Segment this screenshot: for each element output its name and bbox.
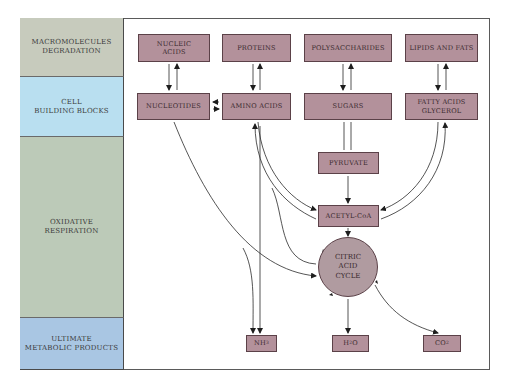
node-lipids-and-fats: LIPIDS AND FATS [405,34,478,62]
node-nucleic-acids: NUCLEIC ACIDS [138,34,210,62]
node-h2o: H2O [332,335,369,352]
node-co2: CO2 [423,335,461,352]
stage-ultimate-metabolic-products: ULTIMATE METABOLIC PRODUCTS [20,318,124,370]
node-nh3: NH3 [246,335,277,352]
node-amino-acids: AMINO ACIDS [222,93,291,120]
node-fatty-acids-glycerol: FATTY ACIDS GLYCEROL [405,93,478,120]
stage-oxidative-respiration: OXIDATIVE RESPIRATION [20,137,124,318]
co2-subscript: 2 [446,339,449,348]
node-proteins: PROTEINS [222,34,291,62]
node-acetyl-coa: ACETYL-CoA [318,205,379,227]
stage-cell-building-blocks: CELL BUILDING BLOCKS [20,77,124,137]
node-nucleotides: NUCLEOTIDES [137,93,210,120]
co2-base: CO [435,339,446,348]
h2o-rest: O [352,339,358,348]
stage-macromolecules-degradation: MACROMOLECULES DEGRADATION [20,18,124,77]
node-pyruvate: PYRUVATE [318,152,379,174]
node-citric-acid-cycle: CITRIC ACID CYCLE [318,237,378,297]
node-polysaccharides: POLYSACCHARIDES [304,34,392,62]
nh3-subscript: 3 [266,339,269,348]
node-sugars: SUGARS [304,93,392,120]
nh3-base: NH [254,339,266,348]
